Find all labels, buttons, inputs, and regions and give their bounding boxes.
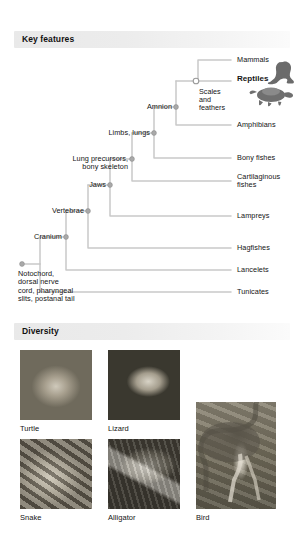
lizard-silhouette-icon <box>268 62 294 85</box>
alligator-caption: Alligator <box>108 513 136 522</box>
node-label-jaws: Jaws <box>60 181 106 189</box>
node-label-cranium: Cranium <box>10 233 62 241</box>
turtle-caption: Turtle <box>20 424 39 433</box>
alligator-photo[interactable] <box>108 439 180 509</box>
node-label-amnion: Amnion <box>97 103 172 111</box>
bird-photo[interactable] <box>196 402 276 509</box>
scales-and-feathers-note: Scales and feathers <box>199 88 225 113</box>
snake-photo[interactable] <box>20 439 92 509</box>
ostrich-silhouette-icon <box>196 402 276 509</box>
diversity-gallery: Turtle Lizard Snake Alligator Bird <box>0 338 304 558</box>
cladogram: Mammals Reptiles Amphibians Bony fishes … <box>0 48 304 310</box>
node-label-lung-precursors: Lung precursors, bony skeleton <box>40 155 128 172</box>
node-label-notochord: Notochord, dorsal nerve cord, pharyngeal… <box>18 270 104 304</box>
tip-label-tunicates: Tunicates <box>237 288 269 296</box>
figure-page: Key features <box>0 0 304 558</box>
diversity-title: Diversity <box>22 326 59 336</box>
node-label-limbs-lungs: Limbs, lungs <box>63 129 150 137</box>
turtle-photo[interactable] <box>20 350 92 420</box>
tip-label-cartilaginous-fishes: Cartilaginous fishes <box>237 173 280 190</box>
bird-caption: Bird <box>196 513 210 522</box>
lizard-photo[interactable] <box>108 350 180 420</box>
node-label-vertebrae: Vertebrae <box>22 207 84 215</box>
tip-label-lancelets: Lancelets <box>237 266 269 274</box>
tip-label-lampreys: Lampreys <box>237 212 269 220</box>
tip-label-reptiles: Reptiles <box>237 75 269 83</box>
tip-label-amphibians: Amphibians <box>237 121 276 129</box>
tip-label-mammals: Mammals <box>237 56 269 64</box>
key-features-header: Key features <box>14 31 290 48</box>
tip-label-bony-fishes: Bony fishes <box>237 154 275 162</box>
turtle-silhouette-icon <box>250 88 293 107</box>
key-features-title: Key features <box>22 34 74 44</box>
tip-label-hagfishes: Hagfishes <box>237 244 270 252</box>
snake-caption: Snake <box>20 513 42 522</box>
lizard-caption: Lizard <box>108 424 129 433</box>
